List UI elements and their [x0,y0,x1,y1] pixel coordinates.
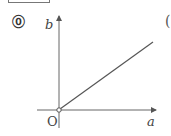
origin-label: O [47,114,58,129]
graph-line [60,42,153,109]
origin-open-point [57,108,61,112]
graph [0,0,171,136]
x-axis-label: a [147,114,155,129]
y-axis-label: b [45,17,53,32]
